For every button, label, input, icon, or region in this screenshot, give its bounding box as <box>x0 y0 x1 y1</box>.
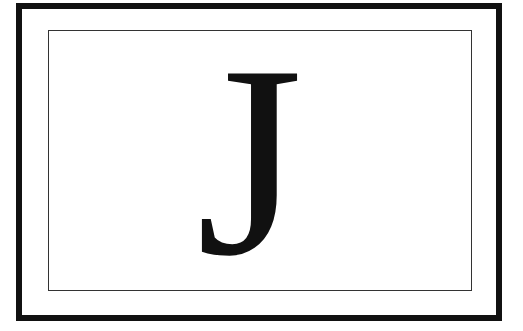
letter-glyph: J <box>0 24 511 298</box>
